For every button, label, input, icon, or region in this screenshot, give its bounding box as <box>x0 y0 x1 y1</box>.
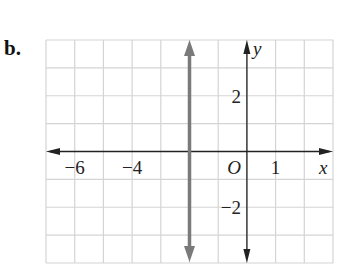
x-tick-label: −6 <box>65 157 85 178</box>
x-axis-label: x <box>318 157 328 178</box>
tick-labels: −6−412−2Oxy <box>65 38 328 218</box>
y-axis-label: y <box>251 38 262 59</box>
y-axis-up-arrow-icon <box>243 40 250 54</box>
y-tick-label: 2 <box>231 86 241 107</box>
x-axis-right-arrow-icon <box>319 148 333 155</box>
y-tick-label: −2 <box>221 197 241 218</box>
coordinate-plane: −6−412−2Oxy <box>0 0 359 278</box>
x-tick-label: 1 <box>271 157 281 178</box>
x-axis-left-arrow-icon <box>46 148 60 155</box>
x-tick-label: −4 <box>122 157 143 178</box>
origin-label: O <box>227 157 241 178</box>
y-axis-down-arrow-icon <box>243 249 250 263</box>
